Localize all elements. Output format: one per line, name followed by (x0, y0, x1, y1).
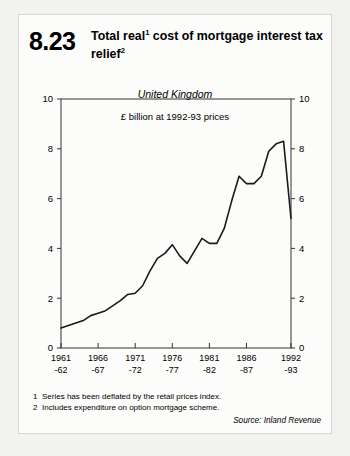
y-axis-label-left: 0 (48, 342, 53, 353)
footnote-2-number: 2 (33, 402, 42, 413)
y-axis-label-right: 6 (299, 193, 304, 204)
y-axis-label-left: 10 (42, 93, 53, 104)
x-axis-label-year-end: -93 (284, 365, 297, 375)
plot-area-wrapper: 002244668810101961-621966-671971-721976-… (19, 15, 333, 435)
y-axis-label-left: 8 (48, 143, 53, 154)
footnotes: 1Series has been deflated by the retail … (33, 391, 323, 413)
x-axis-label-year-end: -77 (166, 365, 179, 375)
x-axis-label-year-end: -72 (129, 365, 142, 375)
y-axis-label-left: 2 (48, 293, 53, 304)
x-axis-label-year: 1992 (281, 353, 301, 363)
y-axis-label-left: 6 (48, 193, 53, 204)
source-attribution: Source: Inland Revenue (233, 416, 321, 425)
y-axis-label-right: 10 (299, 93, 310, 104)
x-axis-label-year-end: -82 (203, 365, 216, 375)
footnote-1-number: 1 (33, 391, 42, 402)
y-axis-label-right: 2 (299, 293, 304, 304)
footnote-1: 1Series has been deflated by the retail … (33, 391, 323, 402)
footnote-1-text: Series has been deflated by the retail p… (42, 392, 221, 401)
x-axis-label-year-end: -62 (54, 365, 67, 375)
y-axis-label-right: 4 (299, 243, 304, 254)
data-series-line (61, 141, 291, 328)
plot-frame (61, 99, 291, 348)
x-axis-label-year: 1976 (162, 353, 182, 363)
y-axis-label-right: 8 (299, 143, 304, 154)
x-axis-label-year: 1961 (51, 353, 71, 363)
x-axis-label-year: 1986 (236, 353, 256, 363)
y-axis-label-left: 4 (48, 243, 53, 254)
x-axis-label-year: 1966 (88, 353, 108, 363)
page-background: 8.23 Total real1 cost of mortgage intere… (0, 0, 350, 456)
x-axis-label-year-end: -87 (240, 365, 253, 375)
x-axis-label-year: 1981 (199, 353, 219, 363)
y-axis-label-right: 0 (299, 342, 304, 353)
chart-card: 8.23 Total real1 cost of mortgage intere… (18, 14, 332, 434)
x-axis-label-year: 1971 (125, 353, 145, 363)
line-chart: 002244668810101961-621966-671971-721976-… (19, 15, 333, 435)
footnote-2: 2Includes expenditure on option mortgage… (33, 402, 323, 413)
footnote-2-text: Includes expenditure on option mortgage … (42, 403, 219, 412)
x-axis-label-year-end: -67 (92, 365, 105, 375)
